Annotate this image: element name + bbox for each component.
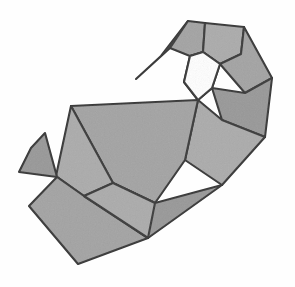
figure-root: Polygonal mesh shape Grayscale scanned l… (0, 0, 295, 287)
polygon-mesh-svg (0, 0, 295, 287)
